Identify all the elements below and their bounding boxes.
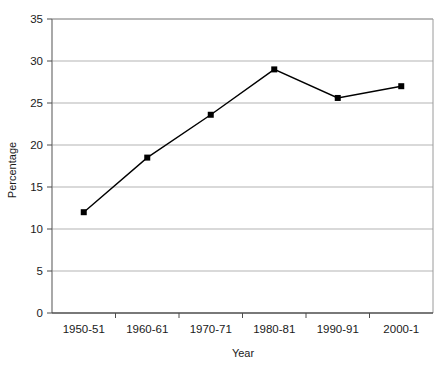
data-point-marker [208, 112, 214, 118]
x-tick-label: 1970-71 [190, 323, 232, 335]
y-tick-label: 10 [30, 223, 43, 235]
y-tick-label: 0 [37, 307, 43, 319]
data-point-marker [144, 155, 150, 161]
y-axis-title: Percentage [6, 142, 18, 198]
y-tick-label: 25 [30, 97, 43, 109]
x-tick-label: 1960-61 [126, 323, 168, 335]
y-tick-label: 20 [30, 139, 43, 151]
x-tick-label: 2000-1 [383, 323, 419, 335]
data-point-marker [398, 83, 404, 89]
plot-area-background [52, 19, 433, 313]
data-point-marker [335, 95, 341, 101]
y-tick-label: 35 [30, 13, 43, 25]
y-tick-label: 5 [37, 265, 43, 277]
y-tick-label: 30 [30, 55, 43, 67]
data-point-marker [81, 209, 87, 215]
chart-canvas: 05101520253035 1950-511960-611970-711980… [0, 0, 439, 370]
x-tick-label: 1990-91 [317, 323, 359, 335]
x-tick-label: 1950-51 [63, 323, 105, 335]
line-chart: 05101520253035 1950-511960-611970-711980… [0, 0, 439, 370]
x-axis-title: Year [232, 347, 255, 359]
x-tick-label: 1980-81 [253, 323, 295, 335]
data-point-marker [271, 66, 277, 72]
y-tick-label: 15 [30, 181, 43, 193]
